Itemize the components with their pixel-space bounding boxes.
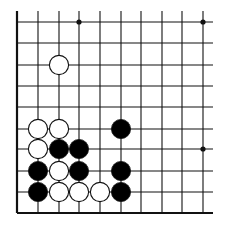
white-stone[interactable] — [90, 182, 109, 201]
board-grid — [17, 11, 213, 213]
white-stone[interactable] — [49, 55, 68, 74]
star-point-icon — [200, 19, 205, 24]
star-point-icon — [200, 146, 205, 151]
black-stone[interactable] — [69, 161, 88, 180]
white-stone[interactable] — [49, 161, 68, 180]
star-point-icon — [76, 19, 81, 24]
black-stone[interactable] — [111, 182, 130, 201]
white-stone[interactable] — [49, 119, 68, 138]
black-stone[interactable] — [49, 139, 68, 158]
black-stone[interactable] — [28, 161, 47, 180]
white-stone[interactable] — [28, 119, 47, 138]
white-stone[interactable] — [69, 182, 88, 201]
white-stone[interactable] — [49, 182, 68, 201]
black-stone[interactable] — [28, 182, 47, 201]
go-board[interactable] — [0, 0, 226, 232]
black-stone[interactable] — [111, 161, 130, 180]
black-stone[interactable] — [69, 139, 88, 158]
black-stone[interactable] — [111, 119, 130, 138]
white-stone[interactable] — [28, 139, 47, 158]
